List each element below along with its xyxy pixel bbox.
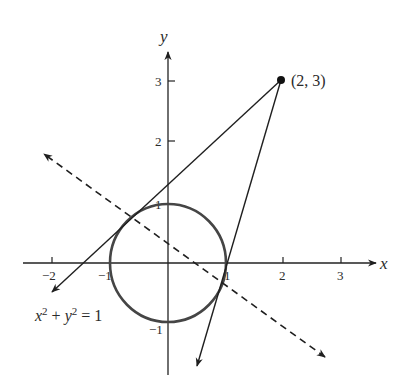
eq-rhs: = 1 [77, 307, 102, 324]
x-tick-label: 3 [337, 268, 344, 283]
y-tick-label: −1 [149, 322, 163, 337]
external-point-marker [277, 76, 285, 84]
y-axis-label: y [158, 27, 168, 46]
external-point-label: (2, 3) [291, 72, 326, 90]
polar-line-dashed [44, 154, 325, 357]
eq-x: x [34, 307, 42, 324]
tangent-line-upper-left [52, 80, 281, 292]
x-axis-label: x [379, 254, 388, 273]
tangent-lines-diagram: −2 −1 1 2 3 x 3 2 1 −1 y (2, 3) x2 + y2 … [0, 0, 404, 386]
y-tick-label: 2 [155, 134, 162, 149]
x-tick-label: −2 [42, 268, 56, 283]
x-tick-label: 2 [279, 268, 286, 283]
circle-equation-label: x2 + y2 = 1 [34, 305, 102, 325]
y-tick-label: 3 [155, 74, 162, 89]
eq-plus: + [48, 307, 65, 324]
